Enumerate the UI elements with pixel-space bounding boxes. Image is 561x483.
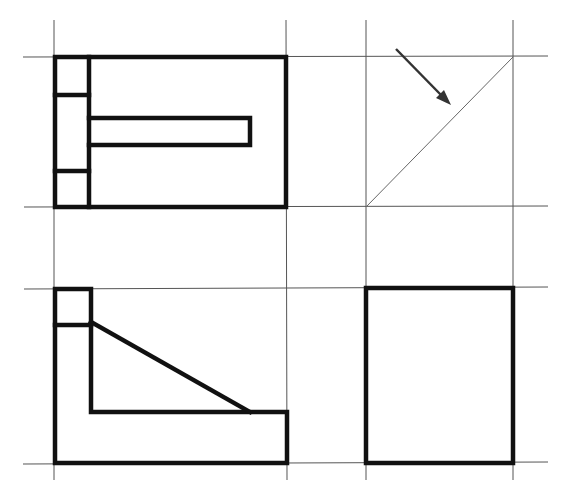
front-view xyxy=(55,289,287,463)
front-view-outline xyxy=(55,289,287,463)
projection-drawing xyxy=(0,0,561,483)
miter-square xyxy=(366,49,513,207)
front-view-rib-diagonal xyxy=(91,322,250,412)
top-view xyxy=(55,57,286,207)
miter-diagonal xyxy=(366,57,513,207)
side-view-outline xyxy=(366,288,513,463)
top-view-slot xyxy=(89,118,250,145)
side-view xyxy=(366,288,513,463)
